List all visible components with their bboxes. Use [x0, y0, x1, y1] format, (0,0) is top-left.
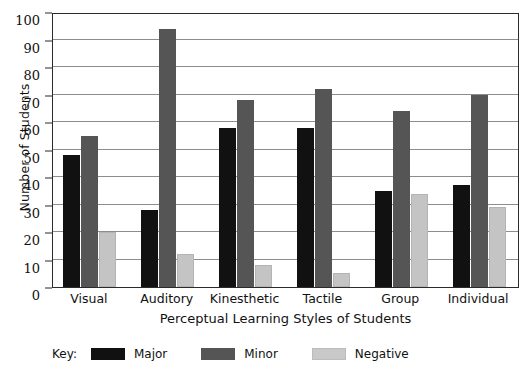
legend-item-minor: Minor [201, 347, 278, 361]
legend-key-label: Key: [52, 347, 77, 361]
y-axis-tick-labels: 0102030405060708090100 [0, 13, 52, 288]
y-tick-mark [45, 260, 52, 261]
y-tick-mark [45, 205, 52, 206]
x-tick-label-individual: Individual [448, 291, 509, 306]
bar-kinesthetic-major [219, 128, 236, 288]
x-tick-label-auditory: Auditory [140, 291, 193, 306]
bar-visual-major [63, 155, 80, 287]
y-tick-mark [45, 95, 52, 96]
legend-swatch-major [91, 348, 125, 360]
x-axis-tick-labels: VisualAuditoryKinestheticTactileGroupInd… [52, 291, 519, 311]
bar-individual-negative [489, 207, 506, 287]
y-tick-mark [45, 233, 52, 234]
bar-kinesthetic-negative [255, 265, 272, 287]
bar-individual-minor [471, 95, 488, 288]
legend-item-negative: Negative [312, 347, 409, 361]
bar-individual-major [453, 185, 470, 287]
bar-tactile-negative [333, 273, 350, 287]
bar-auditory-minor [159, 29, 176, 288]
bar-tactile-major [297, 128, 314, 288]
legend-label-negative: Negative [355, 347, 409, 361]
bar-group [297, 14, 350, 287]
x-tick-label-visual: Visual [70, 291, 107, 306]
x-tick-label-tactile: Tactile [303, 291, 343, 306]
y-tick-mark [45, 40, 52, 41]
x-tick-label-group: Group [381, 291, 419, 306]
x-tick-label-kinesthetic: Kinesthetic [210, 291, 280, 306]
y-tick-mark [45, 150, 52, 151]
bar-auditory-major [141, 210, 158, 287]
bar-chart-figure: Number of Students 010203040506070809010… [0, 0, 532, 373]
y-tick-mark [45, 178, 52, 179]
bar-group-major [375, 191, 392, 287]
legend-item-major: Major [91, 347, 167, 361]
bar-group [141, 14, 194, 287]
y-tick-mark [45, 13, 52, 14]
y-tick-mark [45, 123, 52, 124]
bar-visual-negative [99, 232, 116, 287]
bar-tactile-minor [315, 89, 332, 287]
legend-swatch-negative [312, 348, 346, 360]
legend-swatch-minor [201, 348, 235, 360]
chart-legend: Key: MajorMinorNegative [52, 344, 472, 364]
bars-layer [53, 14, 518, 287]
legend-label-major: Major [134, 347, 167, 361]
bar-group [219, 14, 272, 287]
legend-label-minor: Minor [244, 347, 278, 361]
y-tick-mark [45, 288, 52, 289]
bar-kinesthetic-minor [237, 100, 254, 287]
bar-visual-minor [81, 136, 98, 287]
bar-group [453, 14, 506, 287]
y-tick-mark [45, 68, 52, 69]
bar-group [63, 14, 116, 287]
bar-auditory-negative [177, 254, 194, 287]
bar-group [375, 14, 428, 287]
plot-area [52, 13, 519, 288]
bar-group-minor [393, 111, 410, 287]
x-axis-title: Perceptual Learning Styles of Students [52, 311, 519, 326]
bar-group-negative [411, 194, 428, 288]
